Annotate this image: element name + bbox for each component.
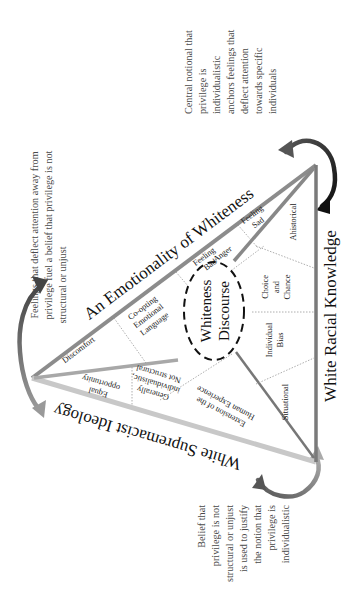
caption-left: Feelings that deflect attention away fro… <box>29 150 68 323</box>
svg-text:Individual: Individual <box>265 322 274 357</box>
caption-top-right-line-5: deflect attention <box>239 48 250 114</box>
caption-top-right: Central notional that privilege is indiv… <box>183 30 278 114</box>
caption-bottom-right-line-5: the notion that <box>252 505 263 564</box>
cell-anger: Anger <box>211 244 233 264</box>
cell-choice-and-chance: Choice and Chance <box>261 274 292 299</box>
caption-bottom-right: Belief that privilege is not structural … <box>196 504 291 582</box>
svg-text:and: and <box>272 280 281 293</box>
svg-text:Bias: Bias <box>276 333 285 348</box>
cell-equal-opportunity: Equal opportunity <box>77 373 121 403</box>
caption-top-right-line-7: individuals <box>267 69 278 114</box>
caption-bottom-right-line-7: individualistic <box>280 505 291 564</box>
cell-individual-bias: Individual Bias <box>265 322 285 357</box>
caption-top-right-line-1: Central notional that <box>183 30 194 114</box>
caption-bottom-right-line-4: is used to justify <box>238 504 249 572</box>
caption-top-right-line-2: privilege is <box>197 68 208 114</box>
center-label-line-2: Discourse <box>216 281 232 341</box>
cell-extension-human-experience: Extension of the Human Experience <box>190 384 256 431</box>
side-title-knowledge: White Racial Knowledge <box>321 230 340 402</box>
svg-text:Choice: Choice <box>261 275 270 299</box>
caption-left-line-2: privilege fuel a belief that privilege i… <box>43 150 54 319</box>
cell-situational: Situational <box>281 383 290 420</box>
cell-generally-individualistic: Generally individualistic, Not structura… <box>128 362 184 404</box>
center-label-line-1: Whiteness <box>198 280 214 343</box>
caption-top-right-line-4: anchors feelings that <box>225 30 236 114</box>
knowledge-cells: Ahistorical Choice and Chance Individual… <box>261 203 298 420</box>
caption-bottom-right-line-3: structural or unjust <box>224 505 235 582</box>
caption-top-right-line-3: individualistic <box>211 55 222 114</box>
caption-bottom-right-line-1: Belief that <box>196 505 207 548</box>
center-node: Whiteness Discourse <box>184 262 244 360</box>
cell-ahistorical: Ahistorical <box>289 203 298 241</box>
caption-left-line-3: structural or unjust <box>57 246 68 323</box>
whiteness-discourse-diagram: Feelings that deflect attention away fro… <box>0 0 342 607</box>
cell-discomfort: Discomfort <box>61 335 97 366</box>
caption-top-right-line-6: towards specific <box>253 47 264 114</box>
caption-bottom-right-line-6: privilege is <box>266 505 277 551</box>
svg-text:Chance: Chance <box>283 274 292 299</box>
caption-bottom-right-line-2: privilege is not <box>210 505 221 566</box>
